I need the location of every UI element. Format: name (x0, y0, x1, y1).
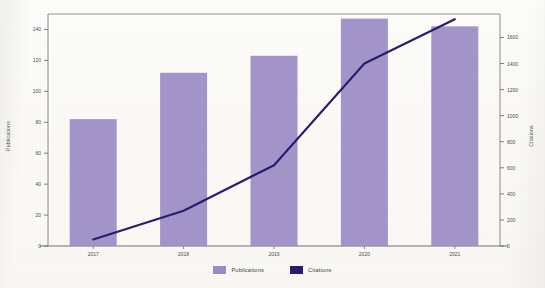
bar-2021[interactable] (431, 26, 478, 246)
legend-label-citations: Citations (308, 267, 332, 273)
right-tick-label: 200 (507, 217, 516, 223)
left-tick-label: 140 (33, 26, 42, 32)
x-tick-label-2019: 2019 (268, 251, 279, 257)
right-tick-label: 800 (507, 139, 516, 145)
right-tick-label: 1400 (507, 61, 518, 67)
bar-series-publications (70, 19, 479, 246)
x-tick-label-2018: 2018 (178, 251, 189, 257)
left-tick-label: 60 (35, 150, 41, 156)
left-tick-label: 120 (33, 57, 42, 63)
legend-item-publications[interactable]: Publications (213, 266, 264, 274)
right-tick-label: 600 (507, 165, 516, 171)
left-tick-label: 0 (38, 243, 41, 249)
legend-swatch-citations-icon (290, 266, 303, 274)
chart-plot-area: 020406080100120140 020040060080010001200… (0, 0, 545, 288)
right-tick-label: 400 (507, 191, 516, 197)
legend-swatch-publications-icon (213, 266, 226, 274)
left-tick-label: 20 (35, 212, 41, 218)
legend-label-publications: Publications (231, 267, 264, 273)
right-axis-ticks: 02004006008001000120014001600 (500, 34, 518, 249)
bar-2020[interactable] (341, 19, 388, 246)
x-tick-label-2021: 2021 (449, 251, 460, 257)
left-tick-label: 100 (33, 88, 42, 94)
right-axis-title: Citations (528, 116, 534, 156)
right-tick-label: 0 (507, 243, 510, 249)
chart-figure: 020406080100120140 020040060080010001200… (0, 0, 545, 288)
right-tick-label: 1600 (507, 34, 518, 40)
bar-2018[interactable] (160, 73, 207, 246)
x-tick-label-2020: 2020 (359, 251, 370, 257)
left-tick-label: 40 (35, 181, 41, 187)
x-axis-labels: 20172018201920202021 (88, 246, 461, 257)
right-tick-label: 1000 (507, 113, 518, 119)
left-axis-title: Publications (5, 116, 11, 156)
chart-legend: Publications Citations (0, 266, 545, 274)
bar-2019[interactable] (250, 56, 297, 246)
x-tick-label-2017: 2017 (88, 251, 99, 257)
left-tick-label: 80 (35, 119, 41, 125)
left-axis-ticks: 020406080100120140 (33, 26, 48, 249)
bar-2017[interactable] (70, 119, 117, 246)
right-tick-label: 1200 (507, 87, 518, 93)
legend-item-citations[interactable]: Citations (290, 266, 332, 274)
